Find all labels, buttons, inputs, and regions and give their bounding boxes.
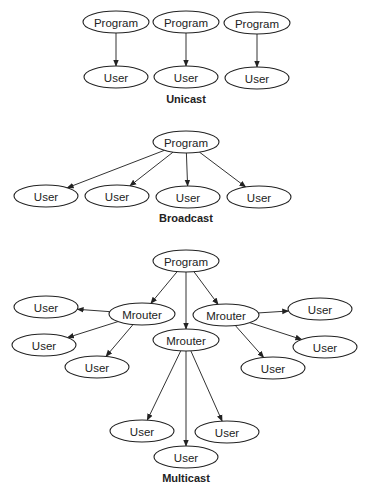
multicast-node-user-uR1: User xyxy=(288,298,352,320)
node-label: Program xyxy=(164,17,208,29)
multicast-node-mrouter-mR: Mrouter xyxy=(193,304,259,326)
caption-broadcast: Broadcast xyxy=(159,212,213,224)
node-label: Program xyxy=(164,256,208,268)
multicast-node-program-p: Program xyxy=(153,250,219,272)
broadcast-edge-p-to-u3 xyxy=(186,153,187,186)
multicast-node-mrouter-mL: Mrouter xyxy=(109,303,175,325)
multicast-edge-p-to-mR xyxy=(194,272,218,305)
multicast-edge-mC-to-uB1 xyxy=(147,351,181,420)
node-label: User xyxy=(245,73,269,85)
multicast-node-user-uB3: User xyxy=(195,421,259,443)
node-label: Program xyxy=(164,137,208,149)
node-label: User xyxy=(34,302,58,314)
multicast-node-user-uB2: User xyxy=(154,446,218,468)
multicast-edge-p-to-mL xyxy=(151,272,177,304)
node-label: User xyxy=(174,72,198,84)
node-label: User xyxy=(85,362,109,374)
node-label: User xyxy=(104,72,128,84)
multicast-node-user-uR2: User xyxy=(293,336,357,358)
multicast-edge-mC-to-uB3 xyxy=(191,351,222,421)
broadcast-node-user-u3: User xyxy=(156,186,220,208)
broadcast-node-program-p: Program xyxy=(153,131,219,153)
multicast-node-user-uL2: User xyxy=(12,334,76,356)
node-label: Program xyxy=(235,18,279,30)
node-label: User xyxy=(261,363,285,375)
node-label: User xyxy=(174,452,198,464)
node-label: User xyxy=(105,191,129,203)
node-label: Mrouter xyxy=(122,309,162,321)
broadcast-node-user-u1: User xyxy=(14,185,78,207)
unicast-node-program-p3: Program xyxy=(224,12,290,34)
multicast-node-mrouter-mC: Mrouter xyxy=(153,329,219,351)
node-label: User xyxy=(215,427,239,439)
multicast-edge-mL-to-uL3 xyxy=(106,325,133,357)
node-label: User xyxy=(176,192,200,204)
node-label: User xyxy=(308,304,332,316)
broadcast-node-user-u2: User xyxy=(85,185,149,207)
multicast-edge-mR-to-uR3 xyxy=(235,326,263,358)
broadcast-node-user-u4: User xyxy=(227,186,291,208)
network-cast-diagram: ProgramProgramProgramUserUserUserProgram… xyxy=(0,0,368,491)
node-label: User xyxy=(32,340,56,352)
caption-unicast: Unicast xyxy=(166,93,206,105)
unicast-node-user-u1: User xyxy=(84,66,148,88)
node-label: Program xyxy=(94,17,138,29)
multicast-edge-mR-to-uR1 xyxy=(258,311,288,313)
unicast-node-program-p1: Program xyxy=(83,11,149,33)
multicast-edge-mR-to-uR2 xyxy=(250,323,302,340)
node-label: User xyxy=(313,342,337,354)
broadcast-edge-p-to-u1 xyxy=(67,150,164,187)
unicast-node-program-p2: Program xyxy=(153,11,219,33)
multicast-node-user-uL1: User xyxy=(14,296,78,318)
multicast-node-user-uB1: User xyxy=(110,420,174,442)
multicast-node-user-uL3: User xyxy=(65,356,129,378)
broadcast-edge-p-to-u2 xyxy=(130,152,173,186)
unicast-node-user-u2: User xyxy=(154,66,218,88)
nodes-layer: ProgramProgramProgramUserUserUserProgram… xyxy=(12,11,357,468)
broadcast-edge-p-to-u4 xyxy=(199,152,245,187)
node-label: Mrouter xyxy=(206,310,246,322)
node-label: User xyxy=(130,426,154,438)
multicast-node-user-uR3: User xyxy=(241,357,305,379)
unicast-node-user-u3: User xyxy=(225,67,289,89)
multicast-edge-mL-to-uL2 xyxy=(68,322,119,338)
node-label: User xyxy=(34,191,58,203)
node-label: User xyxy=(247,192,271,204)
node-label: Mrouter xyxy=(166,335,206,347)
multicast-edge-mL-to-uL1 xyxy=(77,309,109,311)
caption-multicast: Multicast xyxy=(162,472,210,484)
